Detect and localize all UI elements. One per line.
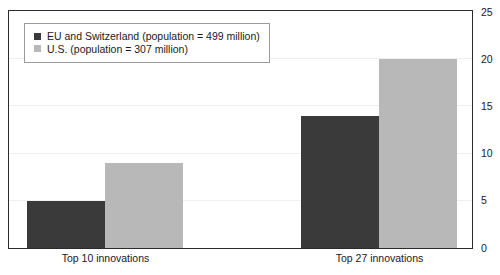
legend-item-eu: EU and Switzerland (population = 499 mil…: [34, 31, 260, 42]
legend-label-us: U.S. (population = 307 million): [47, 44, 188, 55]
y-axis-tick-label: 10: [481, 148, 499, 159]
x-axis-tick-label: Top 10 innovations: [26, 253, 186, 264]
legend-swatch-eu-icon: [34, 33, 41, 40]
legend-item-us: U.S. (population = 307 million): [34, 44, 260, 55]
bar-us: [379, 59, 457, 248]
y-axis-tick-label: 25: [481, 6, 499, 17]
legend-swatch-us-icon: [34, 45, 41, 52]
chart-legend: EU and Switzerland (population = 499 mil…: [24, 23, 270, 63]
bar-chart: 0510152025 Top 10 innovationsTop 27 inno…: [0, 0, 500, 275]
bar-us: [105, 163, 183, 248]
x-axis-tick-label: Top 27 innovations: [300, 253, 460, 264]
y-axis-tick-label: 20: [481, 53, 499, 64]
y-axis-tick-label: 5: [481, 195, 499, 206]
bar-eu: [301, 116, 379, 248]
legend-label-eu: EU and Switzerland (population = 499 mil…: [47, 31, 260, 42]
y-axis-tick-label: 0: [481, 242, 499, 253]
y-axis-tick-label: 15: [481, 101, 499, 112]
bar-eu: [27, 201, 105, 248]
